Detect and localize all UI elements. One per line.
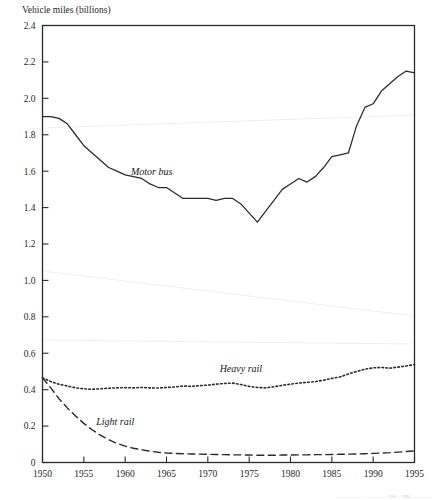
x-tick-label: 1995 [405,469,424,479]
y-tick-label: 1.0 [24,276,36,286]
y-tick-label: 1.6 [24,167,36,177]
y-tick-label: 0.4 [24,385,36,395]
y-tick-label: 2.0 [24,94,36,104]
x-tick-label: 1965 [157,469,176,479]
scan-artifacts [42,115,415,344]
series-label-motor-bus: Motor bus [130,166,173,177]
scan-fold-lower [42,340,415,344]
series-label-heavy-rail: Heavy rail [219,363,263,374]
y-axis-title: Vehicle miles (billions) [22,5,111,16]
x-tick-label: 1960 [116,469,135,479]
x-tick-label: 1970 [198,469,217,479]
series-line-motor-bus [43,71,415,222]
y-tick-label: 0.6 [24,349,36,359]
source-footnote: ........ ....... ....... ... .... ......… [132,494,432,500]
chart-canvas: Vehicle miles (billions) 00.20.40.60.81.… [0,0,436,500]
vehicle-miles-chart: Vehicle miles (billions) 00.20.40.60.81.… [0,0,436,500]
plot-frame [43,26,415,463]
y-tick-label: 0.8 [24,312,36,322]
x-tick-label: 1985 [322,469,341,479]
scan-fold-middle [42,271,415,316]
y-tick-label: 1.8 [24,130,36,140]
x-tick-label: 1950 [33,469,52,479]
y-tick-label: 1.4 [24,203,36,213]
y-tick-label: 1.2 [24,239,36,249]
x-axis-ticks: 1950195519601965197019751980198519901995 [33,457,424,479]
y-axis-ticks: 00.20.40.60.81.01.21.41.61.82.02.22.4 [24,21,49,468]
x-tick-label: 1980 [281,469,300,479]
y-tick-label: 2.4 [24,21,36,31]
x-tick-label: 1990 [364,469,383,479]
y-tick-label: 0 [31,458,36,468]
data-series-group [43,71,415,455]
series-label-light-rail: Light rail [95,416,134,427]
y-tick-label: 2.2 [24,57,36,67]
y-tick-label: 0.2 [24,421,36,431]
x-tick-label: 1955 [74,469,93,479]
x-tick-label: 1975 [240,469,259,479]
